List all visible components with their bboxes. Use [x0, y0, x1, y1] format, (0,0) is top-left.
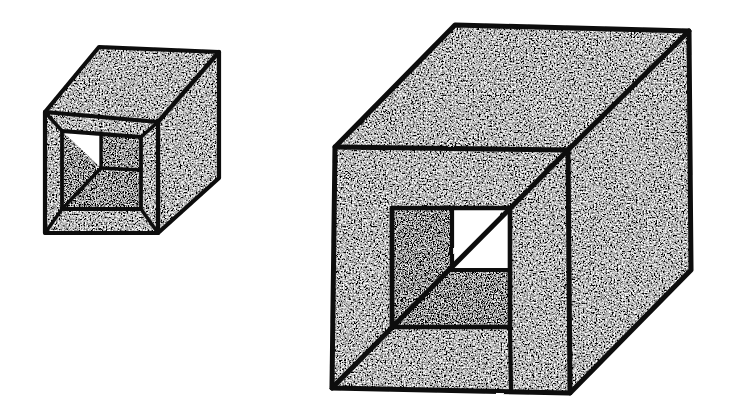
large-box-front-top-edge — [335, 147, 568, 150]
large-box-front-right-edge — [568, 150, 570, 393]
large-box-lower-rib — [510, 327, 511, 391]
small-box-inner-void-base — [101, 168, 141, 170]
stippled-cubes-illustration — [0, 0, 729, 417]
illustration-canvas: Two stippled open-ended box figures Blac… — [0, 0, 729, 417]
